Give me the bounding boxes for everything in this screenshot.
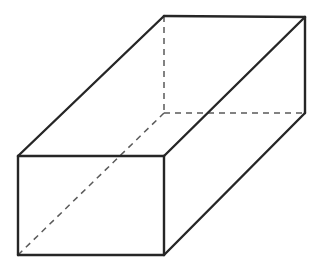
back-top-edge [164, 16, 305, 17]
front-face [18, 156, 164, 255]
face-group [18, 16, 305, 255]
figure-root [0, 0, 322, 272]
rectangular-prism-diagram [0, 0, 322, 272]
